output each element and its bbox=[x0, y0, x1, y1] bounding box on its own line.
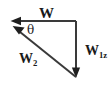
vector-diagram: W W1z W2 θ bbox=[0, 0, 112, 86]
vector-w-arrowhead bbox=[11, 17, 22, 25]
vector-label-w2-subscript: 2 bbox=[33, 58, 37, 68]
vector-label-w1z-base: W bbox=[85, 43, 99, 58]
vector-label-w: W bbox=[39, 6, 54, 21]
vector-label-w1z: W1z bbox=[85, 44, 107, 58]
vector-label-w2: W2 bbox=[19, 52, 37, 66]
vector-w1z bbox=[72, 21, 80, 78]
vector-label-w2-base: W bbox=[19, 51, 33, 66]
vector-label-w1z-subscript: 1z bbox=[99, 50, 107, 60]
angle-label-theta: θ bbox=[27, 24, 34, 36]
